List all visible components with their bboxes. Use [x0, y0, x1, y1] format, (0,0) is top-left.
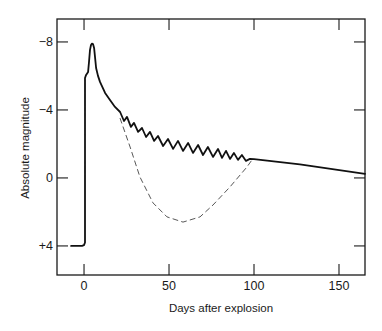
y-tick-label: 0: [46, 171, 53, 185]
plot-series: [71, 44, 365, 246]
axis-ticks: 050100150−8−40+4: [39, 19, 365, 293]
supernova-light-curve-chart: 050100150−8−40+4 Days after explosion Ab…: [0, 0, 382, 331]
x-tick-label: 0: [81, 279, 88, 293]
x-axis-label: Days after explosion: [169, 302, 273, 314]
x-tick-label: 50: [162, 279, 176, 293]
light-curve-line: [71, 44, 365, 246]
y-axis-label: Absolute magnitude: [19, 97, 31, 199]
y-tick-label: −4: [39, 103, 53, 117]
axes-frame: [57, 19, 365, 275]
y-tick-label: −8: [39, 35, 53, 49]
x-tick-label: 100: [244, 279, 265, 293]
dashed-curve: [120, 118, 252, 222]
plot-frame: [57, 19, 365, 275]
y-tick-label: +4: [39, 239, 53, 253]
x-tick-label: 150: [329, 279, 350, 293]
